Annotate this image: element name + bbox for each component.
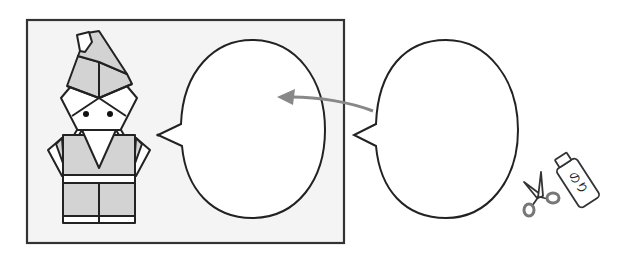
belt [63,175,135,183]
left-eye [83,111,89,117]
speech-bubble-outside [354,40,518,218]
scissors-icon [524,172,559,216]
right-eye [107,111,113,117]
diagram-canvas: のり [0,0,630,260]
